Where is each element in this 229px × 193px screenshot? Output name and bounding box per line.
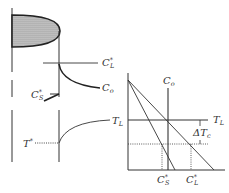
label-cl-star-tick: C*L bbox=[186, 173, 198, 187]
right-panel-phase-diagram: Co TL ΔTc C*S C*L bbox=[128, 73, 225, 187]
label-tl-left: TL bbox=[112, 115, 123, 128]
temperature-profile-curve bbox=[59, 120, 110, 143]
label-cs-star-tick: C*S bbox=[157, 173, 170, 187]
solid-concentration-diagonal bbox=[44, 94, 59, 101]
label-c0-right: Co bbox=[163, 75, 175, 88]
label-tl-right: TL bbox=[213, 114, 224, 127]
solid-region-shaded bbox=[12, 15, 60, 47]
label-t-star: T* bbox=[23, 137, 34, 149]
label-delta-tc: ΔTc bbox=[192, 127, 211, 140]
solidification-diagram: C*L Co C*S TL T* Co TL ΔTc C*S C*L bbox=[0, 0, 229, 193]
label-cs-star: C*S bbox=[31, 88, 44, 102]
liquidus-line bbox=[128, 80, 214, 170]
label-c0: Co bbox=[102, 82, 114, 95]
left-panel: C*L Co C*S TL T* bbox=[12, 8, 123, 162]
label-cl-star: C*L bbox=[102, 56, 114, 70]
concentration-profile-curve bbox=[59, 64, 100, 88]
